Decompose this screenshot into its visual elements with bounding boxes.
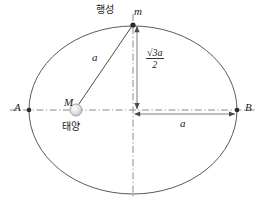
radius-length-label: a <box>92 52 98 63</box>
orbit-diagram-figure: 행성 m A B M 태양 a a √3a 2 <box>0 0 265 206</box>
sun-mass-label: M <box>64 97 73 108</box>
radius-segment <box>76 26 133 109</box>
semi-major-length-label: a <box>180 118 186 129</box>
height-fraction-numerator: √3a <box>146 48 164 59</box>
orbit-diagram-canvas <box>0 0 265 206</box>
height-fraction-denominator: 2 <box>146 59 164 70</box>
height-fraction-numerator-text: 3a <box>153 47 163 58</box>
sun-korean-label: 태양 <box>62 122 80 132</box>
point-A-marker <box>27 108 32 113</box>
planet-mass-label: m <box>134 6 142 17</box>
point-B-marker <box>235 108 240 113</box>
vertex-b-label: B <box>245 102 252 113</box>
height-fraction-label: √3a 2 <box>146 48 164 70</box>
vertex-a-label: A <box>14 102 21 113</box>
point-m-marker <box>130 22 135 27</box>
planet-korean-label: 행성 <box>96 5 114 15</box>
